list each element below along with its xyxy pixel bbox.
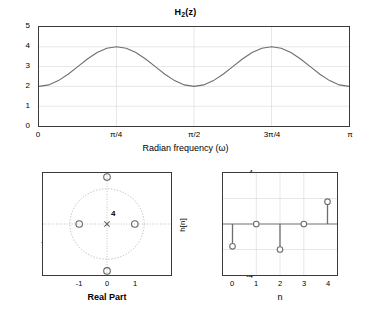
impulse-xtick-4: 4: [318, 279, 338, 288]
magnitude-response-panel: H2(z) |H(ejω)| 5 4 3 2 1 0 0 π/4 π/2 3π/…: [0, 0, 371, 160]
magnitude-ytick-5: 5: [2, 22, 30, 30]
pole-multiplicity-label: 4: [111, 209, 115, 218]
magnitude-ytick-4: 4: [2, 42, 30, 50]
pole-zero-panel: Imaginary Part 1 0.5 0 -0.5 -1 -1 0 1 Re…: [0, 158, 186, 316]
zero-marker-im-pos: [104, 174, 111, 181]
impulse-marker-n1: [254, 221, 260, 227]
impulse-x-axis-label: n: [222, 292, 338, 302]
impulse-xtick-1: 1: [246, 279, 266, 288]
magnitude-ytick-3: 3: [2, 62, 30, 70]
magnitude-plot-title: H2(z): [0, 7, 371, 18]
polezero-axes-box: 4: [42, 172, 172, 276]
magnitude-gridlines-vertical: [117, 27, 272, 126]
magnitude-xtick-pi-4: π/4: [101, 130, 131, 139]
polezero-x-axis-label: Real Part: [42, 292, 172, 302]
impulse-xtick-2: 2: [270, 279, 290, 288]
magnitude-ytick-0: 0: [2, 122, 30, 130]
impulse-marker-n4: [325, 199, 331, 205]
impulse-axes-box: [222, 172, 338, 276]
magnitude-xtick-0: 0: [23, 130, 53, 139]
magnitude-xtick-pi-2: π/2: [179, 130, 209, 139]
matlab-figure-canvas: H2(z) |H(ejω)| 5 4 3 2 1 0 0 π/4 π/2 3π/…: [0, 0, 371, 316]
magnitude-ytick-2: 2: [2, 82, 30, 90]
magnitude-xtick-3pi-4: 3π/4: [257, 130, 287, 139]
magnitude-plot-title-tail: (z): [185, 7, 196, 17]
magnitude-plot-svg: [39, 27, 349, 126]
magnitude-axes-box: [38, 26, 350, 127]
impulse-xtick-3: 3: [294, 279, 314, 288]
polezero-xtick-0: 0: [95, 279, 119, 288]
polezero-plot-svg: [43, 173, 171, 275]
impulse-marker-n3: [301, 221, 307, 227]
impulse-y-axis-label: h[n]: [178, 200, 187, 250]
impulse-xtick-0: 0: [222, 279, 242, 288]
impulse-plot-svg: [223, 173, 337, 275]
impulse-marker-n2: [277, 247, 283, 253]
zero-marker-im-neg: [104, 268, 111, 275]
magnitude-xtick-pi: π: [335, 130, 365, 139]
magnitude-ytick-1: 1: [2, 102, 30, 110]
polezero-xtick-1: 1: [123, 279, 147, 288]
impulse-response-panel: h[n] 4 2 0 -2 -4 0 1 2 3 4 n: [186, 158, 371, 316]
impulse-marker-n0: [230, 244, 236, 250]
magnitude-x-axis-label: Radian frequency (ω): [0, 143, 371, 153]
polezero-xtick-m1: -1: [67, 279, 91, 288]
